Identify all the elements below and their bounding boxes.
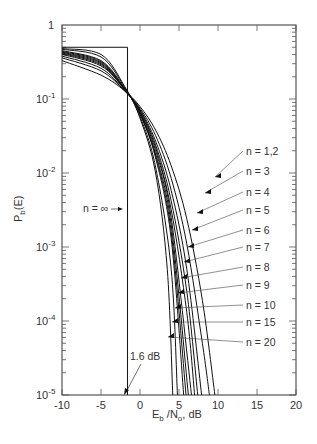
series-label: n = 7: [246, 241, 270, 253]
arrow-head-icon: [205, 189, 211, 194]
arrow-head-icon: [197, 209, 203, 214]
curve-n-5: [62, 54, 198, 395]
curve-n-20: [62, 49, 173, 395]
x-tick-label: 15: [251, 399, 263, 411]
y-tick-label: 10-4: [36, 313, 56, 327]
y-tick-label: 10-3: [36, 239, 56, 253]
series-label: n = 1,2: [246, 145, 279, 157]
series-label: n = 8: [246, 261, 270, 273]
series-label: n = 4: [246, 186, 270, 198]
y-tick-label: 10-1: [36, 91, 56, 105]
n-infinity-label: n = ∞: [83, 202, 108, 214]
x-tick-label: -5: [96, 399, 106, 411]
series-label: n = 10: [246, 299, 276, 311]
arrow-head-icon: [188, 243, 194, 248]
curve-n-15: [62, 49, 177, 395]
arrow-head-icon: [192, 226, 198, 231]
x-tick-labels: -10-505101520: [54, 399, 302, 411]
arrow-head-icon: [215, 173, 221, 178]
series-label: n = 6: [246, 224, 270, 236]
y-axis-label: Pb(E): [12, 196, 27, 222]
curve-n-6: [62, 54, 195, 395]
x-tick-label: 0: [137, 399, 143, 411]
curve-n-: [62, 47, 128, 395]
x-tick-label: -10: [54, 399, 70, 411]
x-tick-label: 20: [290, 399, 302, 411]
curve-n-9: [62, 51, 186, 395]
series-label: n = 9: [246, 279, 270, 291]
series-label: n = 20: [246, 336, 276, 348]
series-label: n = 5: [246, 204, 270, 216]
y-tick-label: 10-5: [36, 387, 56, 401]
series-label: n = 15: [246, 316, 276, 328]
bit-error-rate-chart: 1 10-110-210-310-410-5 -10-505101520 Eb …: [0, 0, 317, 444]
y-tick-label: 10-2: [36, 165, 56, 179]
x-tick-label: 10: [212, 399, 224, 411]
curve-n-4: [62, 56, 202, 395]
db-1-6-arrow: [126, 364, 141, 392]
arrow-head-icon: [118, 207, 123, 211]
db-1-6-label: 1.6 dB: [130, 350, 160, 362]
series-label: n = 3: [246, 165, 270, 177]
curve-n-7: [62, 53, 191, 395]
y-tick-label-1: 1: [48, 19, 54, 31]
arrow-head-icon: [124, 388, 129, 395]
x-axis-label: Eb /No, dB: [152, 408, 202, 423]
curves: [62, 47, 215, 395]
y-tick-labels: 10-110-210-310-410-5: [36, 91, 56, 401]
series-labels: n = 1,2n = 3n = 4n = 5n = 6n = 7n = 8n =…: [168, 145, 279, 348]
